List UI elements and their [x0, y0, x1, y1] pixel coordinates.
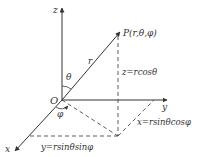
- origin-label: O: [50, 95, 58, 106]
- plane-projection-dashed: [62, 100, 118, 136]
- radius-line: [62, 32, 120, 100]
- point-label: P(r,θ,φ): [122, 28, 157, 38]
- theta-arc: [62, 86, 71, 89]
- spherical-coordinates-diagram: z y x O P(r,θ,φ) r θ φ z=rcosθ x=rsinθco…: [0, 0, 201, 157]
- x-axis-label: x: [5, 144, 10, 154]
- y-axis-label: y: [161, 102, 168, 112]
- theta-label: θ: [66, 72, 72, 82]
- phi-label: φ: [57, 109, 64, 119]
- z-equation: z=rcosθ: [121, 67, 157, 77]
- x-equation: x=rsinθcosφ: [137, 117, 191, 127]
- z-axis-label: z: [52, 5, 58, 15]
- radius-label: r: [88, 56, 93, 66]
- y-equation: y=rsinθsinφ: [40, 142, 93, 152]
